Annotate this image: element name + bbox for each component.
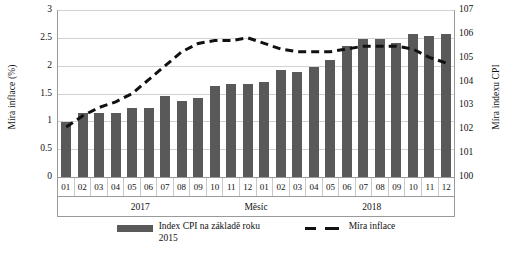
bar (160, 96, 170, 177)
y-tick-left-1.5: 1.5 (18, 89, 52, 99)
x-axis-title: Měsíc (222, 197, 289, 216)
x-tick-month-5: 06 (141, 178, 158, 196)
legend-label-cpi-index: Index CPI na základě roku 2015 (159, 221, 271, 244)
bar-slot (339, 10, 356, 177)
bar (375, 39, 385, 177)
bar (309, 67, 319, 177)
bar-slot (157, 10, 174, 177)
bar-slot (372, 10, 389, 177)
legend-label-inflation-rate: Míra inflace (349, 221, 396, 233)
y-tick-right-101: 101 (459, 148, 473, 158)
bar (226, 84, 236, 177)
x-axis-month-labels: 0102030405060708091011120102030405060708… (57, 177, 455, 197)
x-tick-month-22: 11 (422, 178, 439, 196)
y-tick-right-107: 107 (459, 5, 473, 15)
bar-slot (75, 10, 92, 177)
bar-slot (289, 10, 306, 177)
x-tick-month-9: 10 (207, 178, 224, 196)
y-axis-left-title: Míra inflace (%) (7, 52, 17, 142)
x-tick-month-23: 12 (439, 178, 455, 196)
bar (276, 70, 286, 177)
bar-slot (256, 10, 273, 177)
x-axis-group-2017: 2017 (58, 197, 222, 216)
bar (94, 113, 104, 177)
legend-item-cpi-index: Index CPI na základě roku 2015 (117, 221, 271, 244)
y-tick-left-2: 2 (18, 61, 52, 71)
bar (441, 34, 451, 177)
bar (127, 108, 137, 177)
x-tick-month-6: 07 (157, 178, 174, 196)
bar (210, 86, 220, 177)
bar (111, 113, 121, 177)
bar-slot (223, 10, 240, 177)
y-tick-left-0.5: 0.5 (18, 144, 52, 154)
bar-slot (405, 10, 422, 177)
dashed-line-swatch-icon (305, 223, 343, 233)
x-tick-month-8: 09 (190, 178, 207, 196)
bar (342, 46, 352, 177)
y-tick-left-3: 3 (18, 5, 52, 15)
bar (78, 113, 88, 177)
y-tick-right-105: 105 (459, 53, 473, 63)
bar (144, 108, 154, 177)
bar-swatch-icon (117, 225, 153, 232)
x-tick-month-13: 02 (273, 178, 290, 196)
x-tick-month-3: 04 (108, 178, 125, 196)
y-axis-left-ticks: 00.511.522.53 (18, 0, 52, 255)
chart-legend: Index CPI na základě roku 2015 Míra infl… (57, 221, 455, 253)
y-axis-right-ticks: 100101102103104105106107 (459, 0, 493, 255)
bar-slot (421, 10, 438, 177)
bar-slot (240, 10, 257, 177)
bar-slot (355, 10, 372, 177)
bar-slot (108, 10, 125, 177)
y-tick-right-100: 100 (459, 172, 473, 182)
bar (259, 82, 269, 177)
x-tick-month-12: 01 (257, 178, 274, 196)
y-tick-right-102: 102 (459, 124, 473, 134)
y-tick-left-1: 1 (18, 116, 52, 126)
y-tick-right-106: 106 (459, 29, 473, 39)
bar (61, 122, 71, 177)
bar-slot (141, 10, 158, 177)
bar-slot (91, 10, 108, 177)
bar (325, 60, 335, 177)
bar (391, 43, 401, 177)
x-axis-group-2018: 2018 (290, 197, 454, 216)
x-tick-month-19: 08 (372, 178, 389, 196)
bar (243, 84, 253, 177)
bar (177, 101, 187, 177)
x-tick-month-2: 03 (91, 178, 108, 196)
legend-item-inflation-rate: Míra inflace (305, 221, 396, 233)
x-tick-month-0: 01 (58, 178, 75, 196)
x-tick-month-15: 04 (306, 178, 323, 196)
bar (292, 72, 302, 177)
x-axis-year-labels: 2017 Měsíc 2018 (57, 197, 455, 217)
x-tick-month-7: 08 (174, 178, 191, 196)
bar-slot (207, 10, 224, 177)
bar (424, 36, 434, 177)
y-tick-left-0: 0 (18, 172, 52, 182)
bar (358, 39, 368, 177)
x-tick-month-18: 07 (356, 178, 373, 196)
x-tick-month-11: 12 (240, 178, 257, 196)
bar-slot (322, 10, 339, 177)
x-tick-month-20: 09 (389, 178, 406, 196)
bar-slot (190, 10, 207, 177)
bar-slot (58, 10, 75, 177)
y-tick-left-2.5: 2.5 (18, 33, 52, 43)
bar-slot (174, 10, 191, 177)
bar (193, 98, 203, 177)
plot-area (57, 10, 455, 177)
inflation-cpi-chart: Míra inflace (%) Míra indexu CPI 00.511.… (0, 0, 508, 255)
x-tick-month-14: 03 (290, 178, 307, 196)
bar-slot (438, 10, 455, 177)
bar (408, 34, 418, 177)
y-tick-right-104: 104 (459, 77, 473, 87)
x-tick-month-21: 10 (405, 178, 422, 196)
bar-series (58, 10, 454, 177)
x-tick-month-1: 02 (75, 178, 92, 196)
bar-slot (388, 10, 405, 177)
bar-slot (124, 10, 141, 177)
bar-slot (306, 10, 323, 177)
bar-slot (273, 10, 290, 177)
